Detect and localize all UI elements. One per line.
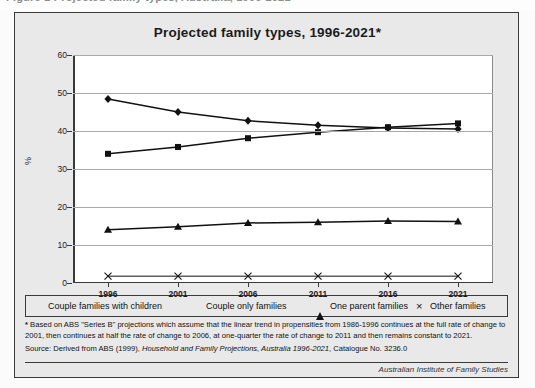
y-axis-tick-mark xyxy=(67,207,72,208)
y-axis-tick-mark xyxy=(67,283,72,284)
y-axis-tick-labels: 0102030405060 xyxy=(35,55,67,283)
y-axis-tick-label: 10 xyxy=(37,240,67,250)
footnote-star-text: Based on ABS "Series B" projections whic… xyxy=(25,320,505,340)
source-publication-title: Household and Family Projections, Austra… xyxy=(142,344,329,353)
x-axis-tick-label: 2021 xyxy=(434,289,482,299)
diamond-icon xyxy=(34,302,43,311)
data-point-marker xyxy=(174,108,181,116)
chart-title: Projected family types, 1996-2021* xyxy=(15,25,520,40)
cross-icon: × xyxy=(416,302,425,311)
y-axis-tick-mark xyxy=(67,131,72,132)
gridline xyxy=(73,93,493,94)
y-axis-tick-mark xyxy=(67,55,72,56)
source-prefix: Source: Derived from ABS (1999), xyxy=(25,344,142,353)
legend-item: Couple only families xyxy=(192,296,287,316)
legend-item: One parent families xyxy=(316,296,408,316)
data-point-marker xyxy=(455,120,461,126)
gridline xyxy=(73,207,493,208)
x-axis-tick-mark xyxy=(248,283,249,287)
x-axis-tick-mark xyxy=(318,283,319,287)
y-axis-tick-label: 0 xyxy=(37,278,67,288)
legend-item-label: Other families xyxy=(430,301,486,311)
data-point-marker xyxy=(245,135,251,141)
figure-notes: * Based on ABS "Series B" projections wh… xyxy=(25,318,508,368)
series-line xyxy=(108,221,458,230)
legend-item: ×Other families xyxy=(416,296,486,316)
triangle-icon-glyph xyxy=(316,302,324,320)
legend-item-label: Couple only families xyxy=(206,301,287,311)
footnote-star-marker: * xyxy=(25,320,28,329)
y-axis-tick-mark xyxy=(67,245,72,246)
x-axis-tick-label: 1996 xyxy=(84,289,132,299)
legend-item-label: Couple families with children xyxy=(48,301,162,311)
data-point-marker xyxy=(385,124,391,130)
x-axis-tick-label: 2001 xyxy=(154,289,202,299)
gridline xyxy=(73,169,493,170)
data-point-marker xyxy=(314,121,321,129)
data-point-marker xyxy=(104,95,111,103)
data-point-marker xyxy=(244,117,251,125)
series-line xyxy=(108,99,458,129)
gridline xyxy=(73,245,493,246)
y-axis-tick-label: 20 xyxy=(37,202,67,212)
legend-item-label: One parent families xyxy=(330,301,408,311)
figure-credit: Australian Institute of Family Studies xyxy=(25,365,508,374)
source-suffix: , Catalogue No. 3236.0 xyxy=(329,344,407,353)
y-axis-title: % xyxy=(23,157,33,165)
y-axis-tick-label: 40 xyxy=(37,126,67,136)
footer-divider xyxy=(25,362,508,363)
figure-source: Source: Derived from ABS (1999), Househo… xyxy=(25,344,508,355)
data-point-marker xyxy=(175,144,181,150)
x-axis-tick-mark xyxy=(178,283,179,287)
figure-container: Projected family types, 1996-2021* % 010… xyxy=(14,12,519,378)
footnote-star: * Based on ABS "Series B" projections wh… xyxy=(25,320,508,341)
x-axis-tick-mark xyxy=(458,283,459,287)
y-axis-tick-label: 50 xyxy=(37,88,67,98)
x-axis-tick-mark xyxy=(108,283,109,287)
square-icon xyxy=(192,302,201,311)
x-axis-tick-label: 2011 xyxy=(294,289,342,299)
gridline xyxy=(73,55,493,56)
triangle-icon xyxy=(316,302,325,311)
x-axis-tick-label: 2006 xyxy=(224,289,272,299)
gridline xyxy=(73,131,493,132)
y-axis-tick-label: 30 xyxy=(37,164,67,174)
figure-caption-text: Figure 1 Projected family types, Austral… xyxy=(6,0,291,3)
data-point-marker xyxy=(105,151,111,157)
y-axis-tick-label: 60 xyxy=(37,50,67,60)
x-axis-tick-label: 2016 xyxy=(364,289,412,299)
y-axis-tick-mark xyxy=(67,93,72,94)
figure-caption-strip: Figure 1 Projected family types, Austral… xyxy=(0,0,535,11)
x-axis-tick-mark xyxy=(388,283,389,287)
y-axis-tick-mark xyxy=(67,169,72,170)
legend-item: Couple families with children xyxy=(34,296,162,316)
plot-region xyxy=(73,55,493,283)
